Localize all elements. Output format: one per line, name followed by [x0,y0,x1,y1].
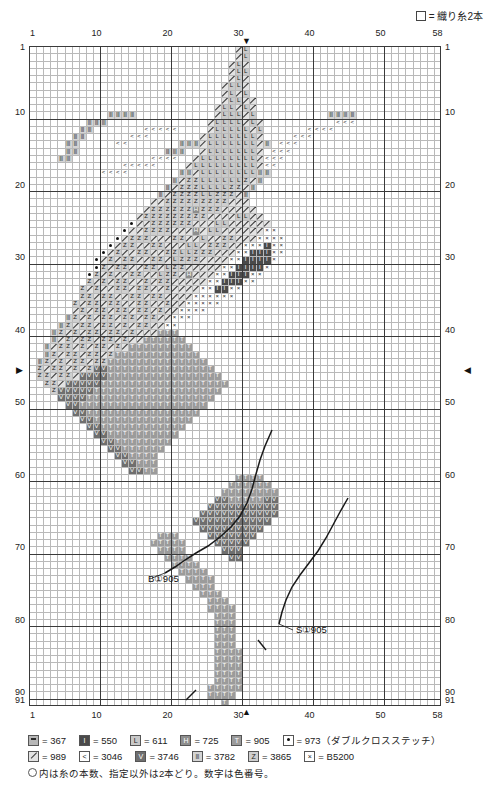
row-tick: 80 [445,615,475,625]
legend-label: = 3046 [93,751,122,762]
center-marker-top: ▼ [242,37,251,46]
legend-swatch-3746: V [135,751,146,762]
legend-item: = 3782 [192,751,235,762]
side-marker-left: ▶ [16,366,23,375]
row-tick: 1 [445,42,475,52]
column-tick: 50 [376,710,386,720]
legend-label: = 611 [144,735,167,746]
legend-swatch-989 [28,751,39,762]
circle-outline-icon [28,768,37,777]
legend-item: T= 905 [231,735,269,746]
row-tick: 40 [445,325,475,335]
row-tick: 91 [445,695,475,705]
pattern-grid[interactable]: LLLLLLLLLLLLLLLLLLLLLLLL<<<<<<<<LLLLLL<<… [29,46,441,706]
legend-item: = 973（ダブルクロスステッチ） [283,733,441,747]
legend-swatch-725: H [180,735,191,746]
column-tick: 1 [30,710,35,720]
legend-item: V= 3746 [135,751,178,762]
column-tick: 1 [30,28,35,38]
row-tick: 50 [445,397,475,407]
legend-label: = 3746 [149,751,178,762]
legend-item: H= 725 [180,735,218,746]
row-tick: 60 [0,470,25,480]
legend-item: <= 3046 [79,751,122,762]
center-marker-bottom: ▲ [242,708,251,717]
annotation-backstitch-right: S①905 [296,624,327,635]
legend-item: Z= 3865 [248,751,291,762]
legend-label: = 550 [93,735,117,746]
row-tick: 40 [0,325,25,335]
legend-row: = 989<= 3046V= 3746= 3782Z= 3865×= B5200 [28,751,488,762]
legend-item: ×= B5200 [304,751,354,762]
legend-swatch-973 [283,735,294,746]
column-tick: 10 [91,28,101,38]
legend-item: L= 611 [130,735,167,746]
legend-label: = 973（ダブルクロスステッチ） [297,733,441,747]
row-tick: 1 [0,42,25,52]
legend-swatch-3046: < [79,751,90,762]
legend-swatch-367 [28,735,39,746]
grid-frame [29,46,441,706]
row-tick: 10 [445,107,475,117]
row-tick: 10 [0,107,25,117]
row-tick: 30 [445,252,475,262]
legend-item: = 367 [28,735,66,746]
legend-label: = 725 [194,735,218,746]
row-tick: 30 [0,252,25,262]
legend-row: = 367I= 550L= 611H= 725T= 905= 973（ダブルクロ… [28,733,488,747]
row-tick: 80 [0,615,25,625]
cross-stitch-chart-page: = 織り糸2本 LLLLLLLLLLLLLLLLLLLLLLLL<<<<<<<<… [0,0,497,789]
column-tick: 20 [163,28,173,38]
annotation-backstitch-left: B①905 [148,573,179,584]
legend-item: I= 550 [79,735,117,746]
legend-item: = 989 [28,751,66,762]
legend-swatch-905: T [231,735,242,746]
legend-label: = B5200 [318,751,354,762]
row-tick: 91 [0,695,25,705]
legend-footnote: 内は糸の本数、指定以外は2本どり。数字は色番号。 [28,766,274,780]
row-tick: 60 [445,470,475,480]
legend-footnote-text: 内は糸の本数、指定以外は2本どり。数字は色番号。 [39,768,274,779]
row-tick: 70 [445,542,475,552]
color-legend: = 367I= 550L= 611H= 725T= 905= 973（ダブルクロ… [28,733,488,766]
legend-swatch-550: I [79,735,90,746]
column-tick: 10 [91,710,101,720]
column-tick: 40 [305,28,315,38]
column-tick: 58 [432,710,442,720]
legend-label: = 3865 [262,751,291,762]
column-tick: 20 [163,710,173,720]
fabric-thread-note: = 織り糸2本 [0,8,483,23]
row-tick: 70 [0,542,25,552]
legend-label: = 367 [42,735,66,746]
legend-label: = 905 [245,735,269,746]
side-marker-right: ◀ [464,366,471,375]
row-tick: 20 [0,180,25,190]
column-tick: 40 [305,710,315,720]
fabric-thread-note-text: = 織り糸2本 [429,11,483,22]
legend-swatch-3865: Z [248,751,259,762]
legend-swatch-611: L [130,735,141,746]
column-tick: 50 [376,28,386,38]
column-tick: 58 [432,28,442,38]
row-tick: 20 [445,180,475,190]
legend-swatch-B5200: × [304,751,315,762]
row-tick: 50 [0,397,25,407]
legend-label: = 989 [42,751,66,762]
legend-swatch-3782 [192,751,203,762]
legend-label: = 3782 [206,751,235,762]
square-outline-icon [416,11,426,21]
